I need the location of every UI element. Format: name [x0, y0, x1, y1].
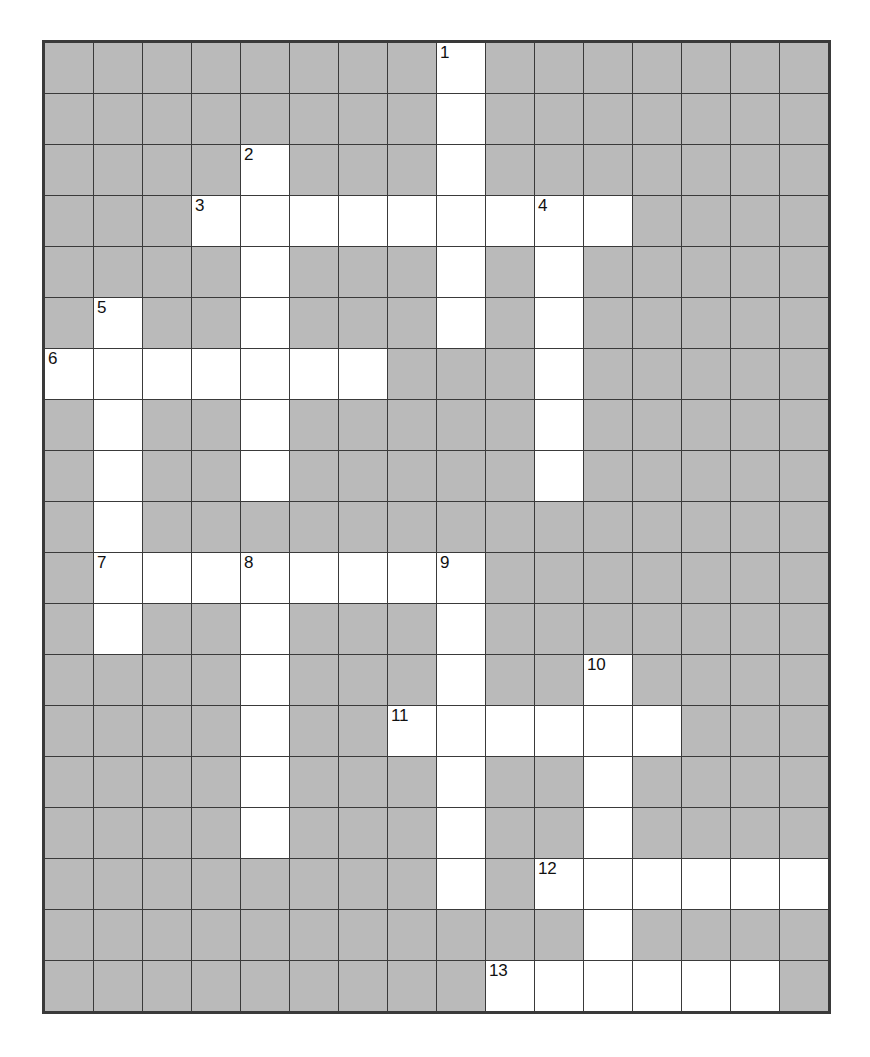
crossword-cell-open[interactable]: [584, 859, 633, 910]
crossword-cell-open[interactable]: [290, 196, 339, 247]
crossword-cell-open[interactable]: [241, 706, 290, 757]
crossword-cell-block: [682, 349, 731, 400]
crossword-cell-open[interactable]: [437, 298, 486, 349]
crossword-cell-open[interactable]: [339, 349, 388, 400]
crossword-cell-open[interactable]: [780, 859, 829, 910]
crossword-cell-open[interactable]: [94, 604, 143, 655]
crossword-cell-open[interactable]: [535, 451, 584, 502]
crossword-cell-open[interactable]: [290, 349, 339, 400]
crossword-cell-open[interactable]: [682, 961, 731, 1012]
crossword-cell-open[interactable]: [143, 553, 192, 604]
crossword-cell-block: [731, 94, 780, 145]
crossword-cell-block: [45, 757, 94, 808]
crossword-cell-open[interactable]: [633, 859, 682, 910]
crossword-cell-open[interactable]: [241, 349, 290, 400]
crossword-cell-open[interactable]: [290, 553, 339, 604]
crossword-cell-open[interactable]: [584, 808, 633, 859]
crossword-cell-open[interactable]: [535, 961, 584, 1012]
crossword-cell-open[interactable]: [437, 145, 486, 196]
crossword-cell-block: [94, 910, 143, 961]
crossword-grid-frame: 12345678910111213: [42, 40, 831, 1014]
crossword-cell-open-numbered-1[interactable]: 1: [437, 43, 486, 94]
crossword-cell-block: [143, 655, 192, 706]
crossword-cell-open[interactable]: [535, 349, 584, 400]
crossword-cell-open-numbered-11[interactable]: 11: [388, 706, 437, 757]
crossword-cell-open[interactable]: [241, 655, 290, 706]
crossword-cell-open[interactable]: [633, 961, 682, 1012]
crossword-cell-open[interactable]: [584, 910, 633, 961]
crossword-cell-block: [388, 400, 437, 451]
crossword-cell-open[interactable]: [633, 706, 682, 757]
crossword-cell-open[interactable]: [437, 859, 486, 910]
crossword-cell-open[interactable]: [94, 451, 143, 502]
crossword-cell-open[interactable]: [94, 502, 143, 553]
crossword-cell-block: [94, 247, 143, 298]
crossword-cell-block: [780, 502, 829, 553]
crossword-cell-open[interactable]: [437, 706, 486, 757]
crossword-cell-open-numbered-6[interactable]: 6: [45, 349, 94, 400]
crossword-cell-open[interactable]: [388, 196, 437, 247]
crossword-cell-open[interactable]: [584, 961, 633, 1012]
crossword-cell-block: [339, 706, 388, 757]
crossword-cell-open-numbered-8[interactable]: 8: [241, 553, 290, 604]
crossword-cell-block: [535, 145, 584, 196]
crossword-cell-open[interactable]: [584, 706, 633, 757]
crossword-cell-open-numbered-10[interactable]: 10: [584, 655, 633, 706]
crossword-cell-open[interactable]: [94, 400, 143, 451]
crossword-cell-open-numbered-9[interactable]: 9: [437, 553, 486, 604]
crossword-cell-open[interactable]: [437, 655, 486, 706]
crossword-cell-block: [437, 400, 486, 451]
crossword-cell-open[interactable]: [241, 196, 290, 247]
crossword-cell-open[interactable]: [241, 298, 290, 349]
crossword-cell-open[interactable]: [437, 247, 486, 298]
crossword-cell-open[interactable]: [437, 808, 486, 859]
crossword-cell-open[interactable]: [241, 451, 290, 502]
crossword-cell-open[interactable]: [94, 349, 143, 400]
crossword-cell-open-numbered-13[interactable]: 13: [486, 961, 535, 1012]
crossword-row: 1: [45, 43, 829, 94]
crossword-cell-open[interactable]: [584, 757, 633, 808]
crossword-cell-block: [388, 247, 437, 298]
crossword-cell-open[interactable]: [241, 247, 290, 298]
crossword-cell-open[interactable]: [339, 196, 388, 247]
crossword-cell-open[interactable]: [388, 553, 437, 604]
crossword-cell-open[interactable]: [535, 400, 584, 451]
crossword-cell-open[interactable]: [535, 247, 584, 298]
crossword-cell-open[interactable]: [192, 553, 241, 604]
crossword-cell-block: [339, 247, 388, 298]
crossword-cell-block: [731, 298, 780, 349]
crossword-cell-open[interactable]: [241, 808, 290, 859]
crossword-cell-open[interactable]: [731, 961, 780, 1012]
crossword-cell-open[interactable]: [241, 400, 290, 451]
crossword-cell-open[interactable]: [682, 859, 731, 910]
crossword-cell-block: [633, 247, 682, 298]
crossword-cell-open-numbered-5[interactable]: 5: [94, 298, 143, 349]
crossword-cell-block: [584, 43, 633, 94]
crossword-cell-open[interactable]: [535, 706, 584, 757]
crossword-cell-open[interactable]: [486, 196, 535, 247]
crossword-cell-open[interactable]: [731, 859, 780, 910]
crossword-cell-open[interactable]: [584, 196, 633, 247]
crossword-cell-block: [45, 451, 94, 502]
crossword-cell-open[interactable]: [143, 349, 192, 400]
crossword-cell-open[interactable]: [192, 349, 241, 400]
crossword-row: 34: [45, 196, 829, 247]
crossword-cell-open-numbered-3[interactable]: 3: [192, 196, 241, 247]
crossword-cell-block: [633, 400, 682, 451]
crossword-cell-open-numbered-4[interactable]: 4: [535, 196, 584, 247]
crossword-cell-open-numbered-2[interactable]: 2: [241, 145, 290, 196]
crossword-cell-open[interactable]: [241, 757, 290, 808]
crossword-cell-open[interactable]: [486, 706, 535, 757]
crossword-cell-open[interactable]: [437, 94, 486, 145]
crossword-cell-open-numbered-12[interactable]: 12: [535, 859, 584, 910]
crossword-cell-block: [682, 145, 731, 196]
crossword-cell-open-numbered-7[interactable]: 7: [94, 553, 143, 604]
crossword-cell-open[interactable]: [241, 604, 290, 655]
crossword-cell-open[interactable]: [437, 757, 486, 808]
crossword-cell-block: [584, 145, 633, 196]
crossword-cell-open[interactable]: [339, 553, 388, 604]
crossword-cell-open[interactable]: [437, 196, 486, 247]
crossword-cell-open[interactable]: [535, 298, 584, 349]
crossword-cell-open[interactable]: [437, 604, 486, 655]
crossword-cell-block: [388, 604, 437, 655]
